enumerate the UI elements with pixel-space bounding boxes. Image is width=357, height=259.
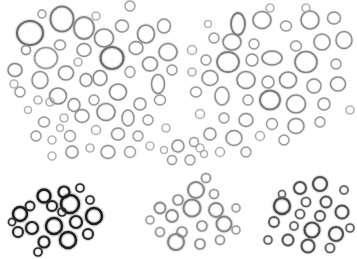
scatter-plot-svg [0,0,357,259]
figure-canvas [0,0,357,259]
